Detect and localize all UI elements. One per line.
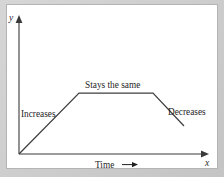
annotation-increases: Increases [21,109,56,119]
line-graph: y x Increases Stays the same Decreases T… [7,5,218,169]
x-axis-caption: Time [95,160,114,169]
figure-panel: y x Increases Stays the same Decreases T… [6,4,218,169]
data-curve [19,93,184,154]
y-axis-arrow-icon [16,15,23,23]
y-axis-label: y [8,13,14,23]
x-axis-arrow-icon [201,151,209,158]
annotation-decreases: Decreases [168,107,206,117]
x-axis-label: x [204,158,210,168]
annotation-stays-the-same: Stays the same [85,80,140,90]
figure-container: y x Increases Stays the same Decreases T… [0,0,224,177]
time-arrow-head-icon [132,162,138,167]
